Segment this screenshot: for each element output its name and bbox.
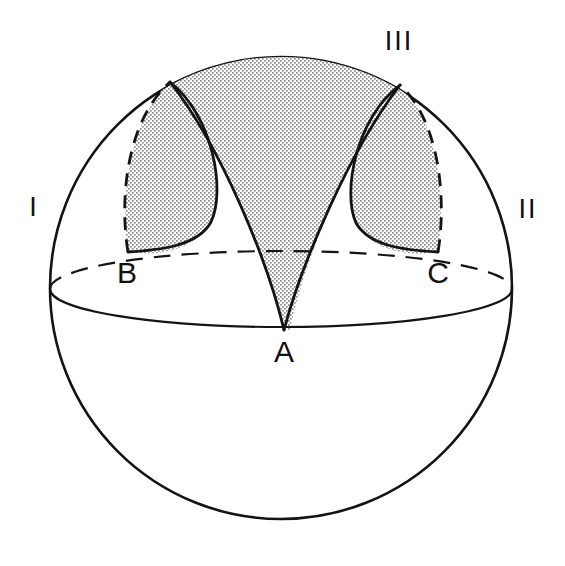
vertex-label-b: B	[117, 256, 137, 289]
region-label-iii: III	[385, 26, 414, 56]
sphere-diagram: A B C I II III	[0, 0, 565, 566]
vertex-label-c: C	[427, 256, 449, 289]
vertex-label-a: A	[274, 335, 294, 368]
figure-canvas: A B C I II III	[0, 0, 565, 566]
region-label-i: I	[29, 192, 39, 222]
region-label-ii: II	[518, 194, 537, 224]
